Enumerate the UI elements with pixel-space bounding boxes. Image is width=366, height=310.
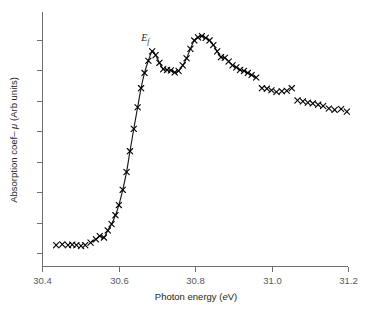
x-axis-tick-label: 30.4 (33, 275, 52, 286)
x-axis-tick-label: 30.8 (186, 275, 205, 286)
data-point-marker (157, 60, 162, 65)
data-point-marker (97, 233, 102, 238)
data-group (53, 33, 349, 248)
x-axis-ticks (43, 267, 349, 272)
data-point-marker (264, 86, 269, 91)
x-axis-tick-labels: 30.430.630.831.031.2 (33, 275, 358, 286)
x-axis-tick-label: 31.2 (339, 275, 358, 286)
data-point-marker (105, 228, 110, 233)
data-point-marker (332, 107, 337, 112)
data-point-marker (113, 213, 118, 218)
x-axis-tick-label: 31.0 (263, 275, 282, 286)
data-point-marker (310, 101, 315, 106)
data-point-marker (274, 89, 279, 94)
x-axis-title-part2: V) (228, 291, 238, 302)
data-point-marker (88, 240, 93, 245)
x-axis-title: Photon energy (eV) (155, 291, 237, 302)
data-point-marker (60, 242, 65, 247)
fermi-level-annotation: Ef (140, 32, 150, 46)
x-axis-tick-label: 30.6 (110, 275, 129, 286)
figure-container: 30.430.630.831.031.2 Ef Photon energy (e… (0, 0, 366, 310)
fermi-level-annotation-base: E (140, 32, 147, 43)
data-point-marker (83, 242, 88, 247)
data-point-marker (188, 46, 193, 51)
y-axis-title: Absorption coef– μ (Arb units) (8, 77, 19, 203)
y-axis-ticks (37, 41, 42, 254)
data-point-marker (315, 102, 320, 107)
data-point-marker (214, 49, 219, 54)
data-point-marker (180, 63, 185, 68)
data-point-marker (295, 98, 300, 103)
data-point-marker (320, 103, 325, 108)
fermi-level-annotation-subscript: f (147, 37, 150, 46)
y-axis-title-part1: Absorption coef– (8, 129, 19, 203)
data-point-marker (338, 106, 343, 111)
data-point-marker (146, 58, 151, 63)
data-point-marker (326, 106, 331, 111)
x-axis-title-part1: Photon energy ( (155, 291, 223, 302)
data-point-marker (344, 109, 349, 114)
data-point-marker (269, 88, 274, 93)
data-point-marker (300, 99, 305, 104)
data-point-marker (109, 221, 114, 226)
data-point-marker (184, 56, 189, 61)
absorption-spectrum-chart: 30.430.630.831.031.2 Ef Photon energy (e… (0, 0, 366, 310)
data-point-marker (153, 52, 158, 57)
data-point-marker (53, 242, 58, 247)
data-point-marker (211, 42, 216, 47)
y-axis-title-part2: (Arb units) (8, 77, 19, 123)
data-point-markers (53, 33, 349, 248)
